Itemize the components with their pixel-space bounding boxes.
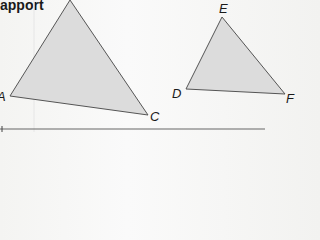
vertex-label-c: C: [150, 109, 159, 124]
triangle-def: [186, 17, 285, 94]
vertex-label-e: E: [219, 1, 228, 16]
triangle-abc: [10, 0, 148, 115]
vertex-label-a: A: [0, 89, 6, 104]
vertex-label-f: F: [286, 91, 294, 106]
vertex-label-d: D: [172, 86, 181, 101]
